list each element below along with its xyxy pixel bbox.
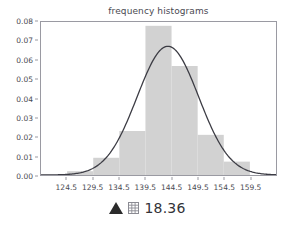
histogram-bar <box>172 66 198 175</box>
y-tick-mark <box>35 79 38 80</box>
x-tick-mark <box>119 177 120 180</box>
histogram-bar <box>198 135 224 175</box>
y-tick-label: 0.00 <box>16 172 33 181</box>
x-tick-label: 159.5 <box>240 183 261 192</box>
y-tick-label: 0.08 <box>16 17 33 26</box>
x-tick-label: 124.5 <box>56 183 77 192</box>
y-tick-label: 0.04 <box>16 94 33 103</box>
grid-icon <box>128 202 139 214</box>
x-tick-label: 144.5 <box>161 183 182 192</box>
x-tick-mark <box>224 177 225 180</box>
y-tick-label: 0.03 <box>16 113 33 122</box>
triangle-up-icon <box>109 202 123 214</box>
x-tick-mark <box>92 177 93 180</box>
y-tick-label: 0.02 <box>16 133 33 142</box>
x-tick-mark <box>250 177 251 180</box>
y-tick-label: 0.07 <box>16 36 33 45</box>
y-tick-label: 0.01 <box>16 152 33 161</box>
y-axis: 0.000.010.020.030.040.050.060.070.08 <box>0 21 38 176</box>
y-tick-mark <box>35 40 38 41</box>
x-tick-mark <box>66 177 67 180</box>
y-tick-mark <box>35 156 38 157</box>
x-tick-label: 134.5 <box>108 183 129 192</box>
figure-container: frequency histograms 0.000.010.020.030.0… <box>0 0 295 226</box>
y-tick-mark <box>35 176 38 177</box>
y-tick-mark <box>35 59 38 60</box>
plot-area <box>40 21 277 176</box>
histogram-bar <box>119 131 145 175</box>
x-tick-label: 139.5 <box>135 183 156 192</box>
caption-number: 18.36 <box>144 201 185 215</box>
y-tick-mark <box>35 21 38 22</box>
x-tick-label: 154.5 <box>214 183 235 192</box>
plot-svg <box>41 22 276 175</box>
x-tick-mark <box>198 177 199 180</box>
chart-title: frequency histograms <box>40 6 277 16</box>
figure-caption: 18.36 <box>0 198 295 218</box>
histogram-bars <box>67 26 250 175</box>
x-tick-label: 129.5 <box>82 183 103 192</box>
y-tick-label: 0.05 <box>16 75 33 84</box>
x-tick-mark <box>171 177 172 180</box>
x-tick-mark <box>145 177 146 180</box>
y-tick-mark <box>35 117 38 118</box>
histogram-bar <box>145 26 171 175</box>
x-axis: 124.5129.5134.5139.5144.5149.5154.5159.5 <box>40 177 277 195</box>
y-tick-mark <box>35 137 38 138</box>
y-tick-label: 0.06 <box>16 55 33 64</box>
y-tick-mark <box>35 98 38 99</box>
histogram-bar <box>224 162 250 175</box>
x-tick-label: 149.5 <box>187 183 208 192</box>
